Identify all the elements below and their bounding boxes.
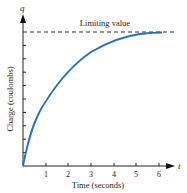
limiting-value-label: Limiting value bbox=[80, 18, 131, 28]
svg-text:1: 1 bbox=[44, 170, 48, 179]
x-axis-arrow-icon bbox=[166, 163, 175, 169]
y-axis-arrow-icon bbox=[20, 14, 26, 23]
svg-text:6: 6 bbox=[157, 170, 161, 179]
charge-chart: q t 1 2 3 4 5 6 Limiting value Time (sec… bbox=[0, 0, 187, 193]
y-axis-title: Charge (coulombs) bbox=[5, 66, 15, 131]
svg-text:4: 4 bbox=[112, 170, 116, 179]
x-axis-title: Time (seconds) bbox=[72, 180, 125, 190]
x-axis-symbol: t bbox=[178, 161, 181, 171]
svg-text:3: 3 bbox=[89, 170, 93, 179]
y-axis-symbol: q bbox=[20, 3, 25, 13]
charge-curve bbox=[23, 33, 162, 167]
x-tick-labels: 1 2 3 4 5 6 bbox=[44, 170, 161, 179]
svg-text:5: 5 bbox=[134, 170, 138, 179]
svg-text:2: 2 bbox=[66, 170, 70, 179]
